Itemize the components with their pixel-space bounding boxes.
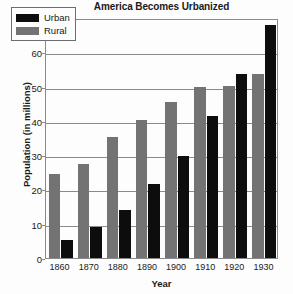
bar-group	[49, 20, 73, 258]
bar-group	[107, 20, 131, 258]
x-tick-label: 1910	[195, 262, 215, 272]
y-axis-title: Population (in millions)	[21, 35, 32, 235]
bar-urban	[61, 240, 73, 258]
bar-rural	[194, 87, 206, 258]
bar-group	[223, 20, 247, 258]
plot-area	[45, 19, 278, 259]
bar-rural	[223, 86, 235, 258]
x-tick-label: 1860	[50, 262, 70, 272]
y-tick-label: 10	[2, 219, 42, 230]
legend-swatch-rural-icon	[16, 27, 39, 35]
bar-rural	[78, 164, 90, 258]
bar-rural	[136, 120, 148, 258]
bar-group	[252, 20, 276, 258]
bar-rural	[165, 102, 177, 258]
bar-urban	[265, 25, 277, 258]
bar-rural	[252, 74, 264, 258]
x-tick-label: 1930	[253, 262, 273, 272]
x-tick-label: 1890	[137, 262, 157, 272]
bar-chart: America Becomes Urbanized Population (in…	[0, 0, 293, 294]
y-tick-label: 60	[2, 48, 42, 59]
bar-urban	[207, 116, 219, 258]
x-tick-label: 1870	[79, 262, 99, 272]
x-tick-label: 1880	[108, 262, 128, 272]
x-tick-label: 1920	[224, 262, 244, 272]
legend-label-rural: Rural	[44, 25, 67, 36]
x-axis-title: Year	[45, 278, 278, 289]
legend-item-rural: Rural	[16, 24, 70, 37]
bar-group	[194, 20, 218, 258]
bar-rural	[107, 137, 119, 258]
y-tick-label: 20	[2, 185, 42, 196]
y-tick-mark	[41, 259, 45, 260]
y-tick-label: 40	[2, 116, 42, 127]
y-tick-label: 0	[2, 254, 42, 265]
bar-rural	[49, 174, 61, 258]
bar-group	[78, 20, 102, 258]
bar-urban	[148, 184, 160, 258]
bar-group	[165, 20, 189, 258]
y-tick-label: 30	[2, 151, 42, 162]
y-tick-label: 50	[2, 82, 42, 93]
bar-urban	[236, 74, 248, 258]
bar-urban	[90, 227, 102, 258]
bar-urban	[178, 156, 190, 258]
legend-item-urban: Urban	[16, 11, 70, 24]
chart-legend: Urban Rural	[11, 7, 76, 41]
legend-label-urban: Urban	[44, 12, 70, 23]
chart-title: America Becomes Urbanized	[45, 1, 278, 12]
legend-swatch-urban-icon	[16, 14, 39, 22]
x-tick-label: 1900	[166, 262, 186, 272]
bar-urban	[119, 210, 131, 258]
bar-group	[136, 20, 160, 258]
